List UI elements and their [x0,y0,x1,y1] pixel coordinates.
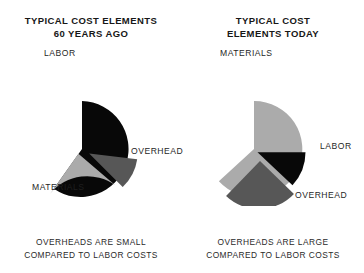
panel-title-today-line1: TYPICAL COST [182,14,364,27]
chart-panel-past: TYPICAL COST ELEMENTS 60 YEARS AGO LABOR… [0,0,182,273]
panel-caption-past-line2: COMPARED TO LABOR COSTS [0,249,182,262]
panel-title-past-line1: TYPICAL COST ELEMENTS [0,14,182,27]
panel-title-today-line2: ELEMENTS TODAY [182,27,364,40]
pie-label-overhead-past: OVERHEAD [131,146,183,156]
pie-label-labor-past: LABOR [44,48,76,58]
pie-chart-past: LABOR OVERHEAD MATERIALS [0,56,182,206]
panel-title-past: TYPICAL COST ELEMENTS 60 YEARS AGO [0,14,182,40]
pie-chart-today-svg [182,56,364,206]
panel-caption-today: OVERHEADS ARE LARGE COMPARED TO LABOR CO… [182,236,364,261]
panel-caption-past-line1: OVERHEADS ARE SMALL [0,236,182,249]
panel-caption-today-line2: COMPARED TO LABOR COSTS [182,249,364,262]
panel-caption-past: OVERHEADS ARE SMALL COMPARED TO LABOR CO… [0,236,182,261]
chart-panel-today: TYPICAL COST ELEMENTS TODAY MATERIALS LA… [182,0,364,273]
pie-label-labor-today: LABOR [320,141,352,151]
pie-chart-past-svg [0,56,182,206]
pie-label-materials-today: MATERIALS [220,48,273,58]
pie-label-overhead-today: OVERHEAD [295,190,347,200]
pie-chart-today: MATERIALS LABOR OVERHEAD [182,56,364,206]
panel-title-today: TYPICAL COST ELEMENTS TODAY [182,14,364,40]
panel-title-past-line2: 60 YEARS AGO [0,27,182,40]
panel-caption-today-line1: OVERHEADS ARE LARGE [182,236,364,249]
pie-label-materials-past: MATERIALS [32,182,85,192]
